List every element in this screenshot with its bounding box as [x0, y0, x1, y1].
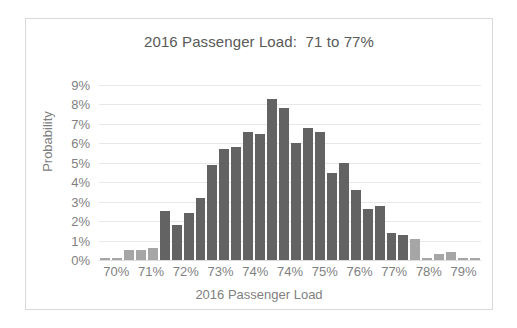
x-axis-tick: 74%	[242, 264, 268, 279]
x-axis-tick: 78%	[416, 264, 442, 279]
x-axis-tick: 74%	[277, 264, 303, 279]
y-axis-tick: 0%	[71, 253, 90, 268]
x-axis-tick: 72%	[173, 264, 199, 279]
x-axis-tick: 76%	[346, 264, 372, 279]
bar	[470, 258, 480, 260]
bar	[112, 258, 122, 260]
bar	[315, 132, 325, 260]
chart-title: 2016 Passenger Load: 71 to 77%	[26, 33, 492, 50]
bar	[339, 163, 349, 260]
bar	[303, 128, 313, 260]
x-axis-tick: 73%	[208, 264, 234, 279]
x-axis-tick-labels: 70%71%72%73%74%74%75%76%77%78%79%	[99, 264, 481, 284]
bar	[327, 173, 337, 261]
bar	[279, 108, 289, 260]
bar	[291, 143, 301, 260]
bar	[184, 213, 194, 260]
y-axis-tick: 5%	[71, 155, 90, 170]
y-axis-tick: 7%	[71, 116, 90, 131]
y-axis-tick: 3%	[71, 194, 90, 209]
x-axis-tick: 79%	[451, 264, 477, 279]
bar	[136, 250, 146, 260]
gridline	[99, 260, 481, 261]
bar	[351, 190, 361, 260]
x-axis-title: 2016 Passenger Load	[26, 287, 492, 302]
bar	[410, 239, 420, 260]
y-axis-tick: 1%	[71, 233, 90, 248]
y-axis-tick: 6%	[71, 136, 90, 151]
x-axis-tick: 71%	[138, 264, 164, 279]
y-axis-tick: 8%	[71, 97, 90, 112]
bar	[207, 165, 217, 260]
x-axis-tick: 70%	[103, 264, 129, 279]
bar	[160, 211, 170, 260]
x-axis-tick: 77%	[381, 264, 407, 279]
bar	[172, 225, 182, 260]
bar	[446, 252, 456, 260]
bar	[434, 254, 444, 260]
bar	[458, 258, 468, 260]
bar	[267, 99, 277, 260]
bar	[255, 134, 265, 260]
bar	[422, 258, 432, 260]
y-axis-tick: 2%	[71, 214, 90, 229]
bar	[387, 233, 397, 260]
bar	[100, 258, 110, 260]
bar	[363, 209, 373, 260]
bar	[375, 206, 385, 260]
y-axis-tick: 9%	[71, 78, 90, 93]
y-axis-tick-labels: 0%1%2%3%4%5%6%7%8%9%	[26, 85, 94, 260]
plot-area	[99, 85, 481, 260]
chart-frame: 2016 Passenger Load: 71 to 77% Probabili…	[25, 18, 493, 310]
bar	[148, 248, 158, 260]
bar	[231, 147, 241, 260]
y-axis-tick: 4%	[71, 175, 90, 190]
bar	[196, 198, 206, 260]
bar	[243, 132, 253, 260]
bar	[124, 250, 134, 260]
bar	[398, 235, 408, 260]
bar-series	[99, 85, 481, 260]
bar	[219, 149, 229, 260]
x-axis-tick: 75%	[312, 264, 338, 279]
